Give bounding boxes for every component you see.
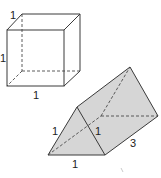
prism-base-label: 1	[72, 158, 78, 170]
prism-inner-label: 1	[95, 125, 101, 137]
prism-side-label: 1	[52, 125, 58, 137]
stray-mark	[121, 168, 123, 172]
cube: 1 1 1	[0, 9, 80, 101]
cube-front-face	[7, 30, 64, 86]
cube-hidden-depth-edge	[7, 71, 22, 86]
cube-depth-label: 1	[10, 9, 16, 21]
cube-width-label: 1	[33, 89, 39, 101]
prism-length-label: 3	[130, 137, 136, 149]
cube-height-label: 1	[0, 52, 6, 64]
geometry-figure: 1 1 1 1 1 1 3	[0, 0, 161, 178]
cube-top-face	[7, 14, 80, 30]
cube-right-face	[64, 14, 80, 86]
